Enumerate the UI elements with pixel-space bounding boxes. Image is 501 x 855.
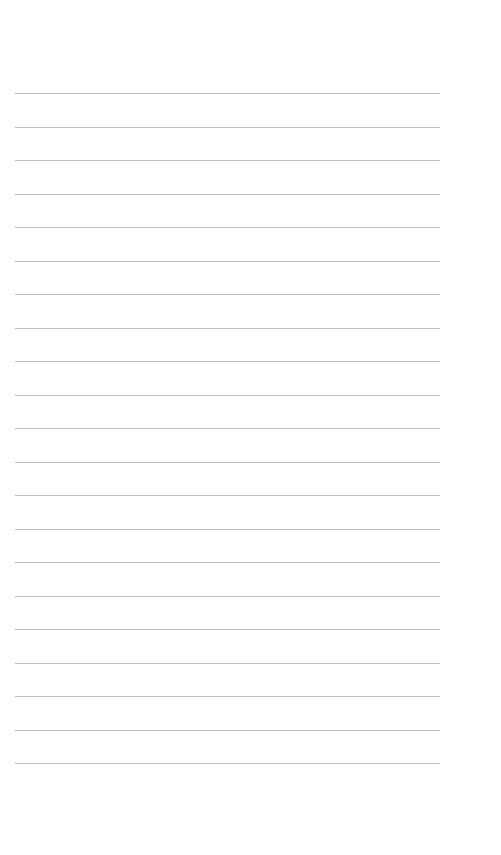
ruled-line [15,93,440,94]
lined-paper-sheet [0,0,501,855]
ruled-line [15,294,440,295]
ruled-line [15,495,440,496]
ruled-line [15,462,440,463]
ruled-line [15,696,440,697]
ruled-line [15,361,440,362]
ruled-line [15,629,440,630]
ruled-line [15,562,440,563]
ruled-line [15,529,440,530]
ruled-line [15,328,440,329]
ruled-line [15,763,440,764]
ruled-line [15,395,440,396]
ruled-line [15,227,440,228]
ruled-line [15,596,440,597]
ruled-line [15,730,440,731]
ruled-line [15,194,440,195]
ruled-line [15,428,440,429]
ruled-line [15,663,440,664]
ruled-line [15,160,440,161]
ruled-line [15,127,440,128]
ruled-line [15,261,440,262]
